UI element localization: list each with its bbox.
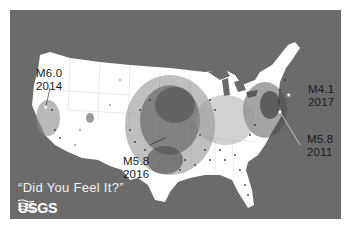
usgs-logo-text: USGS bbox=[18, 199, 57, 216]
label-m60-2014: M6.0 2014 bbox=[36, 67, 62, 93]
label-m41-2017: M4.1 2017 bbox=[308, 83, 334, 109]
magnitude-text: M5.8 bbox=[123, 155, 149, 168]
star-icon: ★ bbox=[286, 92, 291, 98]
year-text: 2014 bbox=[36, 80, 62, 93]
star-icon: ★ bbox=[43, 104, 48, 110]
label-m58-2011: M5.8 2011 bbox=[307, 133, 333, 159]
magnitude-text: M4.1 bbox=[308, 83, 334, 96]
year-text: 2016 bbox=[123, 168, 149, 181]
magnitude-text: M5.8 bbox=[307, 133, 333, 146]
usgs-logo: USGS bbox=[18, 199, 59, 216]
label-m58-2016: M5.8 2016 bbox=[123, 155, 149, 181]
year-text: 2011 bbox=[307, 146, 333, 159]
tagline: “Did You Feel It?” bbox=[18, 180, 124, 195]
magnitude-text: M6.0 bbox=[36, 67, 62, 80]
map-frame: ★ ★ M6.0 2014 M5.8 2016 M4.1 2017 M5.8 2… bbox=[10, 10, 341, 219]
year-text: 2017 bbox=[308, 96, 334, 109]
